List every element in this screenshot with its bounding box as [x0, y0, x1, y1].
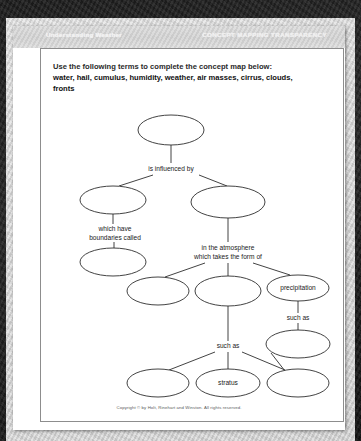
node-ellipse-blank[interactable]: [80, 186, 146, 214]
screenshot-scene: Understanding Weather CONCEPT MAPPING TR…: [0, 0, 361, 441]
node-ellipse-blank[interactable]: [80, 248, 146, 276]
node-ellipse-filled[interactable]: [196, 369, 260, 397]
worksheet-page: Understanding Weather CONCEPT MAPPING TR…: [13, 26, 345, 430]
concept-map-node[interactable]: precipitation: [267, 275, 329, 301]
concept-map-node[interactable]: [80, 186, 146, 214]
instructions-block: Use the following terms to complete the …: [53, 62, 313, 94]
banner-worksheet-type: CONCEPT MAPPING TRANSPARENCY: [202, 31, 327, 38]
concept-map-node[interactable]: [266, 330, 330, 358]
node-ellipse-blank[interactable]: [267, 369, 329, 397]
node-ellipse-blank[interactable]: [127, 369, 189, 397]
concept-map-node[interactable]: [191, 186, 265, 218]
node-ellipse-blank[interactable]: [191, 186, 265, 218]
concept-map-node[interactable]: [267, 369, 329, 397]
node-ellipse-blank[interactable]: [127, 277, 189, 305]
node-ellipse-blank[interactable]: [195, 276, 261, 306]
node-ellipse-blank[interactable]: [138, 115, 204, 145]
node-ellipse-filled[interactable]: [267, 275, 329, 301]
node-ellipse-blank[interactable]: [266, 330, 330, 358]
footer-copyright: Copyright © by Holt, Rinehart and Winsto…: [13, 405, 345, 410]
page-content-border: [40, 48, 344, 422]
concept-map-node[interactable]: [138, 115, 204, 145]
word-bank-terms: water, hail, cumulus, humidity, weather,…: [53, 73, 313, 94]
concept-map-node[interactable]: [80, 248, 146, 276]
concept-map-node[interactable]: stratus: [196, 369, 260, 397]
instructions-directive: Use the following terms to complete the …: [53, 62, 313, 72]
concept-map-node[interactable]: [127, 369, 189, 397]
concept-map-node[interactable]: [195, 276, 261, 306]
page-header-banner: Understanding Weather CONCEPT MAPPING TR…: [13, 26, 345, 48]
banner-chapter-title: Understanding Weather: [46, 31, 122, 38]
concept-map-node[interactable]: [127, 277, 189, 305]
